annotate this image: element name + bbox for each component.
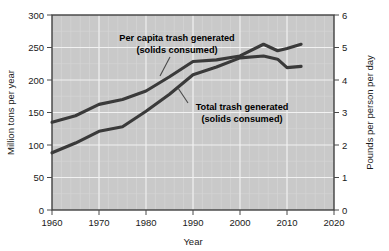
right-axis-tick-labels: 6 5 4 3 2 1 0 [342,10,347,216]
x-tick-label: 1970 [88,217,109,228]
left-tick-label: 150 [28,107,44,118]
right-tick-label: 1 [342,172,347,183]
left-tick-label: 0 [39,205,44,216]
x-tick-label: 1960 [41,217,62,228]
right-tick-label: 3 [342,107,347,118]
annotation-total-trash-line2: (solids consumed) [201,114,282,124]
y-axis-title-left: Million tons per year [5,70,16,155]
right-tick-label: 6 [342,10,347,21]
x-axis-ticks [52,210,334,215]
left-tick-label: 50 [33,172,44,183]
right-axis-ticks [334,15,339,210]
annotation-per-capita-line1: Per capita trash generated [119,33,234,43]
annotation-per-capita-line2: (solids consumed) [136,45,217,55]
right-tick-label: 5 [342,42,347,53]
x-axis-tick-labels: 1960 1970 1980 1990 2000 2010 2020 [41,217,344,228]
left-axis-tick-labels: 300 250 200 150 100 50 0 [28,10,44,216]
right-tick-label: 2 [342,140,347,151]
x-tick-label: 1980 [135,217,156,228]
x-tick-label: 1990 [182,217,203,228]
left-tick-label: 200 [28,75,44,86]
annotation-total-trash-line1: Total trash generated [196,102,289,112]
left-axis-ticks [47,15,52,210]
left-tick-label: 250 [28,42,44,53]
x-tick-label: 2010 [276,217,297,228]
x-tick-label: 2020 [323,217,344,228]
x-axis-title: Year [183,236,202,247]
line-chart: 300 250 200 150 100 50 0 6 5 4 3 2 1 0 1… [0,0,389,251]
right-tick-label: 4 [342,75,347,86]
chart-container: 300 250 200 150 100 50 0 6 5 4 3 2 1 0 1… [0,0,389,251]
x-tick-label: 2000 [229,217,250,228]
right-tick-label: 0 [342,205,347,216]
y-axis-title-right: Pounds per person per day [364,55,375,170]
left-tick-label: 300 [28,10,44,21]
left-tick-label: 100 [28,140,44,151]
